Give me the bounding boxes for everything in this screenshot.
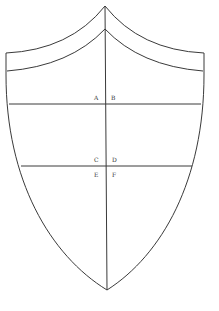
shield-right-side xyxy=(107,53,204,290)
label-b: B xyxy=(111,94,116,101)
label-e: E xyxy=(94,171,98,178)
center-vertical-line xyxy=(105,6,107,290)
label-f: F xyxy=(112,171,116,178)
shield-diagram: A B C D E F xyxy=(0,0,219,311)
label-d: D xyxy=(112,156,117,163)
label-a: A xyxy=(93,94,99,101)
shield-left-side xyxy=(6,53,107,290)
label-c: C xyxy=(94,156,99,163)
